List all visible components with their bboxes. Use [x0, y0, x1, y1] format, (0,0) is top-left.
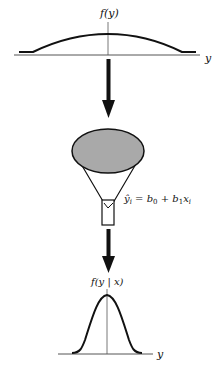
- top-y-label: f(y): [99, 7, 119, 20]
- arrow-shaft: [107, 229, 111, 259]
- top-x-label: y: [204, 52, 212, 65]
- wide-distribution-curve: [19, 34, 196, 52]
- regression-equation: ŷi = b0 + b1xi: [123, 193, 191, 206]
- arrow-head-icon: [102, 100, 115, 118]
- bottom-distribution-plot: f(y | x) y: [58, 276, 164, 361]
- down-arrow-2: [102, 229, 115, 273]
- arrow-shaft: [107, 59, 111, 102]
- down-arrow-1: [102, 59, 115, 118]
- arrow-head-icon: [102, 256, 115, 273]
- regression-funnel-diagram: f(y) y ŷi = b0 + b1xi f(y | x) y: [0, 0, 223, 368]
- top-distribution-plot: f(y) y: [14, 7, 212, 65]
- bottom-x-label: y: [156, 348, 164, 361]
- bottom-y-label: f(y | x): [90, 276, 124, 288]
- funnel-top-ellipse: [72, 129, 144, 173]
- funnel: ŷi = b0 + b1xi: [72, 129, 191, 225]
